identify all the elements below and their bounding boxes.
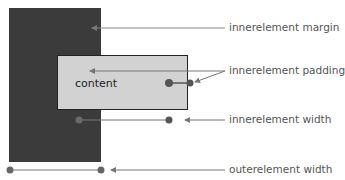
margin-label: innerelement margin: [229, 21, 339, 33]
inner-width-label: innerelement width: [229, 113, 331, 125]
padding-label: innerelement padding: [229, 64, 345, 76]
outer-width-label: outerelement width: [229, 163, 332, 175]
outer-width-end-dot: [98, 167, 105, 174]
outer-width-start-dot: [7, 167, 14, 174]
inner-width-end-dot: [166, 117, 173, 124]
inner-width-start-dot: [76, 117, 83, 124]
padding-end-dot: [187, 80, 194, 87]
padding-start-dot: [165, 79, 173, 87]
